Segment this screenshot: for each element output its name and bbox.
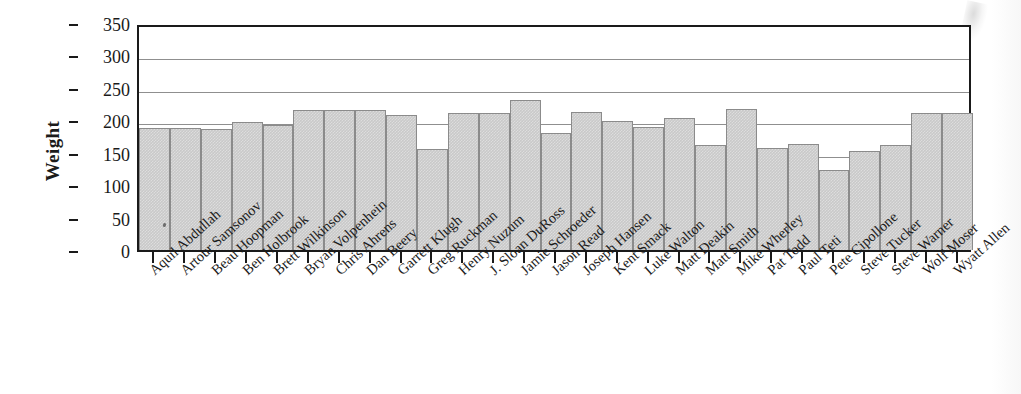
bar-chart: Weight 350300250200150100500 Aquil Abdul… [0,0,1021,394]
x-axis-tick-labels: Aquil AbdullahArtour SamsonovBeau Hoopma… [0,0,1021,394]
chart-page: Weight 350300250200150100500 Aquil Abdul… [0,0,1021,394]
